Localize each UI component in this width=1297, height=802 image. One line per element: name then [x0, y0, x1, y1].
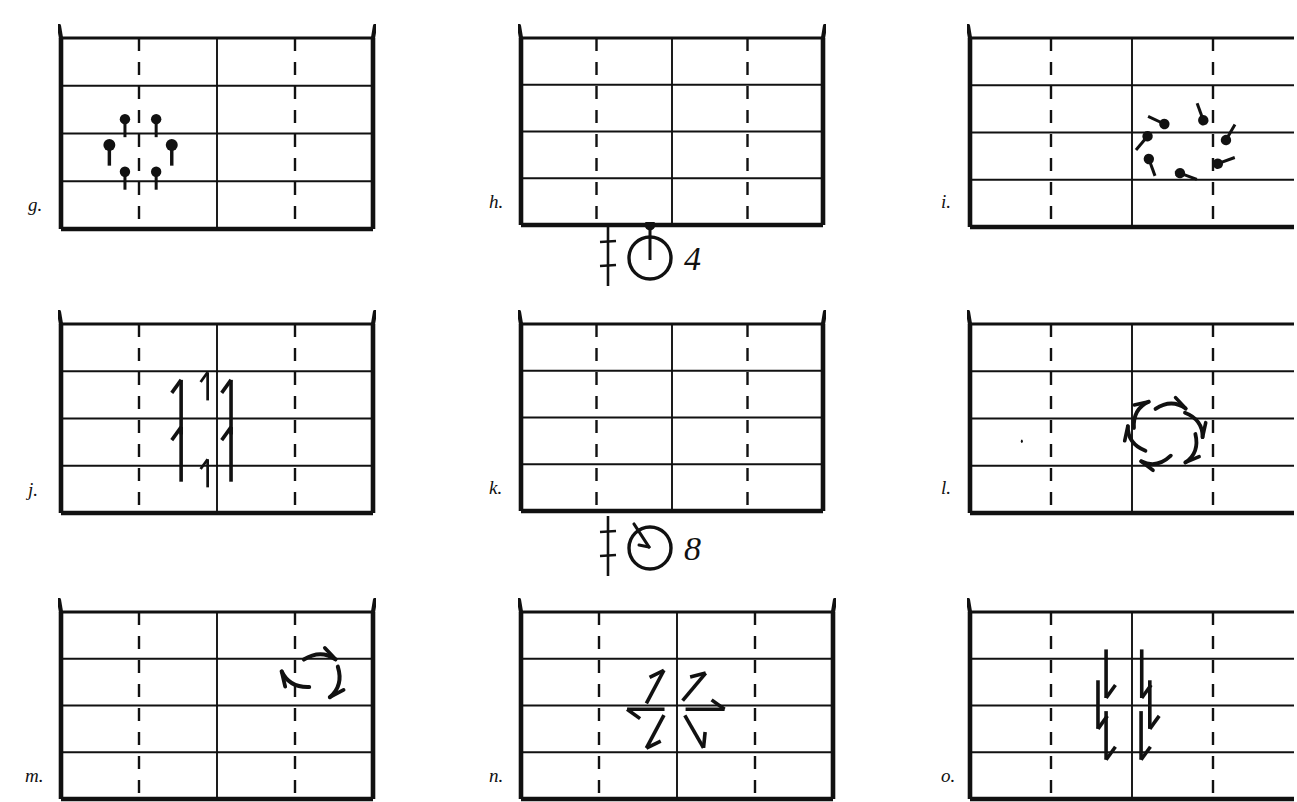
notation-symbol-symbol-8: 8	[596, 512, 726, 578]
curved-rotation-arrow-mark	[1156, 396, 1187, 412]
pin-mark	[1173, 166, 1198, 184]
pin-mark	[1192, 102, 1210, 127]
floor-plan-grid-j	[58, 310, 376, 516]
floor-plan-grid-g	[58, 24, 376, 232]
notation-symbol-symbol-4: 4	[596, 222, 726, 288]
notation-count-value: 8	[684, 530, 701, 567]
floor-plan-grid-m	[58, 598, 376, 802]
pin-mark	[151, 167, 161, 190]
floor-plan-panel-i	[967, 24, 1297, 230]
panel-label-i: i.	[941, 192, 951, 211]
pin-mark	[166, 139, 178, 166]
direction-arrow-mark	[627, 709, 664, 718]
curved-rotation-arrow-mark	[276, 669, 309, 698]
floor-plan-grid-l	[967, 310, 1297, 516]
ink-dot-mark	[1021, 439, 1023, 442]
floor-plan-panel-j	[58, 310, 376, 516]
panel-label-g: g.	[28, 195, 42, 214]
pin-mark	[103, 139, 115, 166]
panel-label-n: n.	[489, 766, 503, 785]
notation-symbol-glyphs: 8	[596, 512, 726, 578]
floor-plan-grid-i	[967, 24, 1297, 230]
floor-plan-panel-m	[58, 598, 376, 802]
floor-plan-panel-h	[518, 24, 826, 228]
panel-label-k: k.	[489, 478, 502, 497]
curved-rotation-arrow-mark	[1123, 396, 1151, 428]
floor-plan-panel-n	[518, 598, 836, 802]
direction-arrow-mark	[222, 427, 231, 482]
curved-rotation-arrow-mark	[1141, 456, 1172, 472]
notation-symbol-glyphs: 4	[596, 222, 726, 288]
notation-count-value: 4	[684, 240, 701, 277]
pin-mark	[120, 167, 130, 190]
panel-label-l: l.	[941, 478, 951, 497]
floor-plan-panel-o	[967, 598, 1297, 802]
curved-rotation-arrow-mark	[327, 667, 350, 701]
direction-arrow-mark	[172, 427, 181, 482]
panel-label-j: j.	[28, 480, 38, 499]
direction-arrow-mark	[685, 711, 712, 748]
floor-plan-panel-g	[58, 24, 376, 232]
direction-arrow-mark	[201, 459, 208, 487]
pin-mark	[1219, 122, 1240, 147]
floor-plan-grid-k	[518, 310, 826, 514]
floor-plan-grid-o	[967, 598, 1297, 802]
panel-label-h: h.	[489, 192, 503, 211]
curved-rotation-arrow-mark	[1185, 406, 1211, 438]
panel-label-m: m.	[25, 766, 43, 785]
floor-plan-grid-h	[518, 24, 826, 228]
floor-plan-panel-l	[967, 310, 1297, 516]
direction-arrow-mark	[201, 372, 208, 400]
direction-arrow-mark	[638, 666, 664, 703]
direction-arrow-mark	[675, 667, 705, 701]
direction-arrow-mark	[646, 715, 672, 752]
direction-arrow-mark	[1106, 649, 1115, 698]
pin-mark	[1142, 152, 1160, 177]
pin-mark	[1211, 153, 1236, 171]
pin-mark	[1146, 112, 1171, 131]
floor-plan-panel-k	[518, 310, 826, 514]
panel-label-o: o.	[941, 766, 955, 785]
curved-rotation-arrow-mark	[304, 646, 337, 662]
floor-plan-grid-n	[518, 598, 836, 802]
